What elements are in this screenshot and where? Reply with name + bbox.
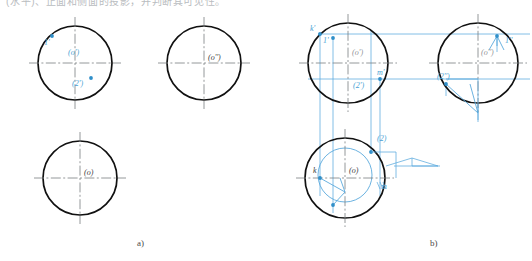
label-o-a: (o) (84, 168, 93, 177)
label-m-b: m (381, 182, 387, 191)
figure-b-construction-lines (308, 30, 530, 213)
figure-b-top-view (296, 129, 440, 227)
drawing-layer: .out{fill:none;stroke:#111111;stroke-wid… (0, 0, 532, 261)
figure-a-top-view (34, 132, 126, 224)
label-m-prime-b: m' (377, 68, 385, 77)
label-2-dblprime-b: (2'') (437, 72, 450, 81)
point-1-prime-marker (331, 36, 335, 40)
label-2-prime-a: (2') (72, 79, 83, 88)
point-1-dblprime-marker (495, 34, 499, 38)
caption-b: b) (430, 238, 438, 248)
caption-a: a) (137, 238, 144, 248)
figure-b (296, 14, 530, 227)
point-1-marker (50, 34, 54, 38)
point-2-marker (89, 76, 93, 80)
point-k-marker (318, 176, 322, 180)
label-2-top-b: (2) (377, 134, 386, 143)
point-2-dblprime-marker (444, 82, 448, 86)
point-m-prime-marker (378, 77, 382, 81)
label-o-dblprime-b: (o'') (481, 48, 494, 57)
figure-canvas: (水平)、正面和侧面的投影，并判断其可见性。 .out{fill:none;st… (0, 0, 532, 261)
label-1-prime-b: 1' (323, 36, 329, 45)
point-k-prime-marker (318, 32, 322, 36)
figure-b-side-view (429, 14, 527, 120)
label-1-prime-a: 1' (44, 38, 50, 47)
label-o-b: (o) (349, 166, 358, 175)
label-o-prime-b: (o') (352, 48, 363, 57)
figure-a-side-view (158, 17, 250, 109)
figure-a (29, 17, 250, 224)
label-k-b: k (313, 166, 317, 175)
label-o-prime-a: (o') (68, 48, 79, 57)
figure-a-front-view (29, 17, 121, 109)
label-o-dblprime-a: (o'') (208, 53, 221, 62)
label-1-dblprime-b: 1'' (505, 36, 512, 45)
label-2-prime-b: (2') (353, 81, 364, 90)
point-1-top-marker (331, 203, 335, 207)
label-k-prime-b: k' (310, 24, 315, 33)
